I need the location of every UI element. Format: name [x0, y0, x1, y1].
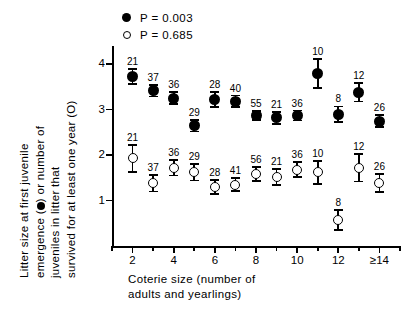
open-circle-marker [230, 180, 240, 190]
filled-circle-marker [333, 109, 344, 120]
x-tick-11 [317, 246, 319, 251]
error-cap-lower [231, 190, 240, 192]
error-cap-lower [252, 180, 261, 182]
filled-circle-marker [230, 96, 241, 107]
error-cap-upper [313, 58, 322, 60]
error-cap-lower [334, 121, 343, 123]
open-circle-marker [333, 215, 343, 225]
filled-circle-marker [209, 94, 220, 105]
sample-size-label: 37 [140, 163, 166, 173]
x-tick-label-6: 6 [200, 255, 230, 267]
open-circle-marker [148, 178, 158, 188]
error-cap-upper [313, 160, 322, 162]
error-cap-lower [149, 191, 158, 193]
error-cap-upper [190, 163, 199, 165]
error-cap-lower [210, 106, 219, 108]
y-tick-label-3: 3 [90, 104, 105, 116]
x-tick-1 [111, 246, 113, 251]
error-cap-upper [354, 153, 363, 155]
filled-circle-marker [353, 87, 364, 98]
error-cap-upper [252, 166, 261, 168]
x-tick-label-10: 10 [282, 255, 312, 267]
y-tick-label-1: 1 [90, 195, 105, 207]
error-cap-upper [149, 174, 158, 176]
sample-size-label: 26 [366, 103, 392, 113]
x-tick-label-2: 2 [118, 255, 148, 267]
x-axis-title: Coterie size (number of adults and yearl… [128, 272, 378, 302]
sample-size-label: 8 [325, 198, 351, 208]
sample-size-label: 26 [366, 162, 392, 172]
y-tick-label-2: 2 [90, 149, 105, 161]
x-axis-title-line-2: adults and yearlings) [128, 287, 378, 302]
open-circle-marker [313, 167, 323, 177]
sample-size-label: 29 [181, 152, 207, 162]
sample-size-label: 21 [120, 133, 146, 143]
filled-circle-icon [37, 202, 45, 210]
x-tick-8 [255, 246, 257, 253]
open-circle-marker [272, 172, 282, 182]
error-cap-lower [313, 183, 322, 185]
open-circle-marker [169, 163, 179, 173]
x-tick-15 [399, 246, 401, 251]
x-tick-4 [173, 246, 175, 253]
plot-area: 1234 24681012≥14 21373629284055213610812… [112, 46, 400, 246]
legend-label-open: P = 0.685 [140, 29, 193, 41]
sample-size-label: 10 [305, 149, 331, 159]
error-cap-upper [375, 173, 384, 175]
error-cap-upper [210, 179, 219, 181]
sample-size-label: 29 [181, 108, 207, 118]
filled-circle-marker [127, 71, 138, 82]
open-circle-marker [292, 165, 302, 175]
filled-circle-marker [168, 93, 179, 104]
x-tick-label-8: 8 [241, 255, 271, 267]
y-axis-title: Litter size at first juvenile emergence … [17, 8, 79, 278]
error-cap-lower [169, 175, 178, 177]
error-cap-lower [128, 83, 137, 85]
figure-scatter-plot: P = 0.003 P = 0.685 1234 24681012≥14 213… [0, 0, 412, 317]
legend: P = 0.003 P = 0.685 [120, 9, 193, 43]
x-tick-5 [193, 246, 195, 251]
error-cap-upper [354, 82, 363, 84]
sample-size-label: 41 [222, 166, 248, 176]
error-cap-upper [128, 144, 137, 146]
sample-size-label: 36 [284, 99, 310, 109]
sample-size-label: 8 [325, 94, 351, 104]
x-tick-13 [358, 246, 360, 251]
open-circle-marker [189, 167, 199, 177]
y-tick-2 [106, 154, 112, 156]
error-cap-lower [272, 123, 281, 125]
error-cap-upper [334, 209, 343, 211]
error-cap-lower [272, 184, 281, 186]
y-axis-title-line-4: survived for at least one year (O) [64, 8, 80, 278]
filled-circle-marker [251, 110, 262, 121]
error-cap-lower [190, 180, 199, 182]
y-tick-label-4: 4 [90, 58, 105, 70]
filled-circle-marker [292, 110, 303, 121]
error-cap-lower [375, 191, 384, 193]
x-tick-6 [214, 246, 216, 253]
sample-size-label: 12 [346, 142, 372, 152]
sample-size-label: 10 [305, 47, 331, 57]
filled-circle-marker [312, 68, 323, 79]
open-circle-icon [120, 31, 133, 39]
open-circle-marker [128, 153, 138, 163]
open-circle-marker [251, 169, 261, 179]
y-tick-3 [106, 109, 112, 111]
sample-size-label: 12 [346, 71, 372, 81]
sample-size-label: 36 [161, 80, 187, 90]
x-tick-2 [132, 246, 134, 253]
error-cap-lower [354, 181, 363, 183]
x-axis-title-line-1: Coterie size (number of [128, 272, 378, 287]
x-tick-3 [152, 246, 154, 251]
x-tick-12 [337, 246, 339, 253]
y-axis-title-line-2: emergence () or number of [33, 8, 49, 278]
open-circle-marker [354, 163, 364, 173]
error-cap-upper [169, 159, 178, 161]
x-tick-10 [296, 246, 298, 253]
error-cap-lower [293, 176, 302, 178]
error-cap-upper [210, 91, 219, 93]
error-cap-lower [313, 87, 322, 89]
error-cap-upper [272, 168, 281, 170]
filled-circle-marker [271, 112, 282, 123]
error-cap-lower [210, 193, 219, 195]
